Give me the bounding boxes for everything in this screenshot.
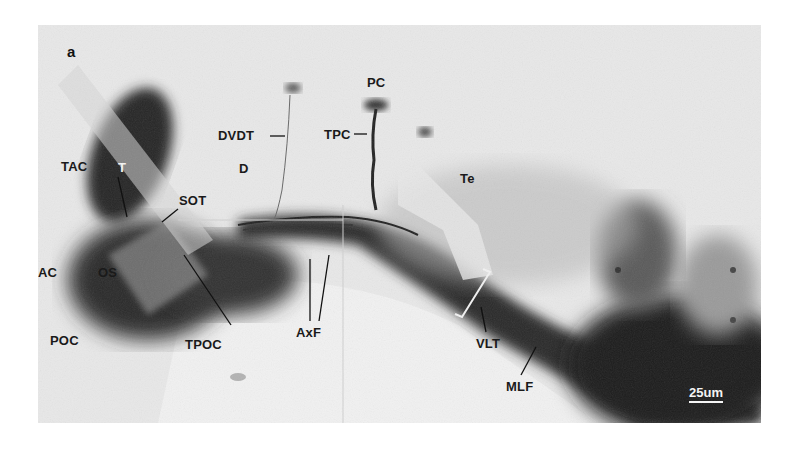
label-poc: POC xyxy=(50,333,79,348)
micrograph-image xyxy=(38,25,761,423)
scale-bar: 25um xyxy=(689,385,723,403)
label-t: T xyxy=(118,160,126,175)
label-dvdt: DVDT xyxy=(218,128,254,143)
label-te: Te xyxy=(460,171,475,186)
label-tpc: TPC xyxy=(324,127,351,142)
label-mlf: MLF xyxy=(506,379,533,394)
label-tpoc: TPOC xyxy=(185,337,222,352)
label-vlt: VLT xyxy=(476,336,500,351)
label-sot: SOT xyxy=(179,193,206,208)
label-axf: AxF xyxy=(296,325,321,340)
micrograph-plate: a T TAC SOT AC OS POC TPOC D DVDT PC TPC… xyxy=(38,25,761,423)
label-d: D xyxy=(239,161,249,176)
panel-letter: a xyxy=(67,43,75,60)
label-ac: AC xyxy=(38,265,57,280)
label-pc: PC xyxy=(367,75,385,90)
label-os: OS xyxy=(98,265,117,280)
label-tac: TAC xyxy=(61,159,87,174)
scale-bar-line xyxy=(689,401,723,403)
scale-bar-label: 25um xyxy=(689,385,723,400)
